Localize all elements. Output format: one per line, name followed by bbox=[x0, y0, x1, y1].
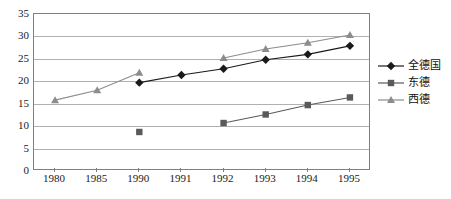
diamond-marker-icon bbox=[261, 56, 269, 64]
x-axis-tick-mark bbox=[138, 168, 139, 172]
diamond-marker-icon bbox=[377, 59, 405, 73]
triangle-marker-icon bbox=[346, 31, 354, 38]
square-marker-icon bbox=[388, 79, 394, 85]
x-axis-tick-mark bbox=[54, 168, 55, 172]
y-axis-tick-label: 20 bbox=[3, 75, 29, 86]
x-axis-tick-mark bbox=[96, 168, 97, 172]
series-layer bbox=[34, 14, 371, 171]
series-line bbox=[224, 35, 350, 58]
series-line bbox=[139, 46, 350, 83]
diamond-marker-icon bbox=[387, 61, 395, 69]
x-axis-tick-mark bbox=[223, 168, 224, 172]
legend-item[interactable]: 全德国 bbox=[377, 57, 451, 74]
y-axis-tick-label: 15 bbox=[3, 98, 29, 109]
x-axis: 19801985199019911992199319941995 bbox=[33, 172, 370, 192]
plot-area bbox=[33, 13, 370, 170]
line-chart: 05101520253035 1980198519901991199219931… bbox=[0, 0, 451, 199]
x-axis-tick-mark bbox=[265, 168, 266, 172]
square-marker-icon bbox=[347, 94, 353, 100]
y-axis-tick-label: 0 bbox=[3, 165, 29, 176]
legend-item[interactable]: 东德 bbox=[377, 74, 451, 91]
x-axis-tick-mark bbox=[180, 168, 181, 172]
x-axis-tick-mark bbox=[307, 168, 308, 172]
x-axis-tick-mark bbox=[349, 168, 350, 172]
legend-item[interactable]: 西德 bbox=[377, 91, 451, 108]
legend-label: 东德 bbox=[405, 76, 430, 90]
triangle-marker-icon bbox=[377, 93, 405, 107]
legend-label: 全德国 bbox=[405, 59, 441, 73]
series-square bbox=[136, 94, 353, 135]
legend: 全德国东德西德 bbox=[377, 57, 451, 108]
triangle-marker-icon bbox=[135, 69, 143, 76]
diamond-marker-icon bbox=[346, 42, 354, 50]
y-axis-tick-label: 30 bbox=[3, 30, 29, 41]
square-marker-icon bbox=[305, 102, 311, 108]
square-marker-icon bbox=[377, 76, 405, 90]
diamond-marker-icon bbox=[304, 50, 312, 58]
y-axis-tick-label: 5 bbox=[3, 143, 29, 154]
diamond-marker-icon bbox=[135, 78, 143, 86]
legend-label: 西德 bbox=[405, 93, 430, 107]
square-marker-icon bbox=[262, 111, 268, 117]
y-axis: 05101520253035 bbox=[0, 13, 29, 170]
triangle-marker-icon bbox=[93, 86, 101, 93]
x-axis-tick-label: 1995 bbox=[324, 172, 374, 185]
square-marker-icon bbox=[220, 120, 226, 126]
y-axis-tick-label: 10 bbox=[3, 120, 29, 131]
series-line bbox=[224, 97, 350, 123]
diamond-marker-icon bbox=[177, 71, 185, 79]
series-triangle bbox=[51, 31, 354, 103]
square-marker-icon bbox=[136, 129, 142, 135]
y-axis-tick-label: 35 bbox=[3, 8, 29, 19]
series-diamond bbox=[135, 42, 354, 87]
y-axis-tick-label: 25 bbox=[3, 53, 29, 64]
diamond-marker-icon bbox=[219, 65, 227, 73]
